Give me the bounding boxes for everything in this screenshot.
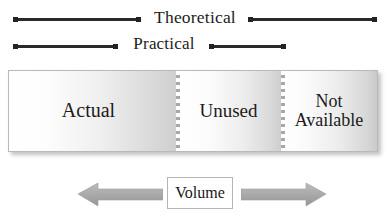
capacity-bar: Actual Unused Not Available (8, 70, 378, 152)
theoretical-line-left (13, 18, 141, 21)
theoretical-line-right (248, 18, 377, 21)
practical-line-right (209, 45, 286, 48)
volume-label: Volume (175, 184, 224, 202)
theoretical-label: Theoretical (141, 4, 249, 30)
volume-increase-arrow-icon (241, 181, 326, 207)
capacity-diagram: Theoretical Practical Actual Unused Not … (0, 0, 390, 217)
bracket-row-theoretical: Theoretical (0, 4, 390, 30)
segment-not-available: Not Available (281, 71, 377, 151)
divider-unused-notavailable (281, 71, 285, 151)
volume-row: Volume (0, 176, 390, 212)
segment-actual-label: Actual (62, 100, 123, 122)
practical-line-left (13, 45, 118, 48)
volume-box: Volume (167, 177, 233, 209)
divider-actual-unused (176, 71, 180, 151)
segment-not-available-label: Not Available (295, 92, 364, 131)
practical-label: Practical (118, 31, 210, 57)
bracket-row-practical: Practical (0, 31, 390, 57)
segment-unused-label: Unused (199, 101, 257, 122)
segment-actual: Actual (9, 71, 176, 151)
segment-unused: Unused (176, 71, 281, 151)
volume-decrease-arrow-icon (78, 181, 163, 207)
